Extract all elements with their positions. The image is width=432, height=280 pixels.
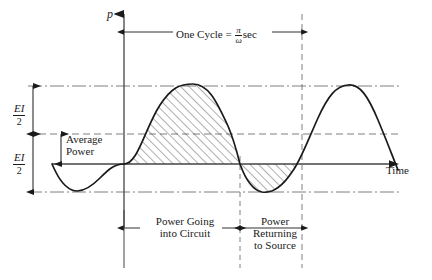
- one-cycle-fraction: πω: [235, 26, 241, 45]
- ei-upper-denominator: 2: [13, 117, 25, 127]
- x-axis-label: Time: [386, 165, 409, 177]
- one-cycle-numerator: π: [235, 26, 241, 35]
- one-cycle-suffix: sec: [243, 28, 257, 40]
- one-cycle-denominator: ω: [235, 36, 241, 45]
- average-power-label: Average Power: [66, 134, 102, 158]
- y-axis-label: p: [107, 8, 113, 21]
- average-power-line-2: Power: [66, 146, 102, 158]
- ei-lower-denominator: 2: [13, 166, 25, 176]
- power-returning-line-2: Returning: [246, 228, 304, 240]
- power-into-circuit-region: [124, 84, 240, 164]
- hatched-regions: [124, 84, 302, 192]
- ei-upper-fraction: EI 2: [13, 103, 25, 127]
- power-going-line-2: into Circuit: [137, 228, 233, 240]
- power-returning-region: [240, 164, 302, 192]
- ei-upper-numerator: EI: [13, 103, 25, 114]
- ei-lower-fraction: EI 2: [13, 152, 25, 176]
- ei-lower-numerator: EI: [13, 152, 25, 163]
- power-returning-line-3: to Source: [246, 240, 304, 252]
- one-cycle-annotation: One Cycle = πωsec: [173, 26, 260, 45]
- one-cycle-prefix: One Cycle =: [176, 28, 234, 40]
- amplitude-upper-label: EI 2: [13, 103, 25, 127]
- amplitude-lower-label: EI 2: [13, 152, 25, 176]
- power-returning-to-source-label: Power Returning to Source: [246, 216, 304, 252]
- power-going-into-circuit-label: Power Going into Circuit: [137, 216, 233, 240]
